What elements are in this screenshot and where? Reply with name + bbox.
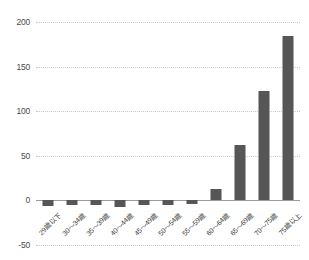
x-axis-labels: 29歳以下30〜34歳35〜39歳40〜44歳45〜49歳50〜54歳55〜59… [36,200,300,260]
y-axis-tick-label: -50 [0,240,30,250]
y-axis-tick-label: 150 [0,62,30,72]
x-axis-tick-label: 75歳以上 [276,210,303,237]
x-axis-tick-label: 29歳以下 [36,210,63,237]
x-axis-tick-label: 35〜39歳 [84,210,112,238]
bar [283,36,294,200]
bar [211,189,222,200]
bar [235,145,246,200]
x-axis-tick-label: 30〜34歳 [60,210,88,238]
bar [259,91,270,200]
x-axis-tick-label: 65〜69歳 [228,210,256,238]
y-axis-tick-label: 100 [0,106,30,116]
x-axis-tick-label: 55〜59歳 [180,210,208,238]
x-axis-tick-label: 50〜54歳 [156,210,184,238]
x-axis-tick-label: 45〜49歳 [132,210,160,238]
y-axis-tick-label: 0 [0,195,30,205]
bar-chart: 200150100500-50 29歳以下30〜34歳35〜39歳40〜44歳4… [0,0,309,260]
x-axis-tick-label: 40〜44歳 [108,210,136,238]
y-axis-tick-label: 200 [0,17,30,27]
x-axis-tick-label: 60〜64歳 [204,210,232,238]
y-axis-tick-label: 50 [0,151,30,161]
x-axis-tick-label: 70〜75歳 [252,210,280,238]
